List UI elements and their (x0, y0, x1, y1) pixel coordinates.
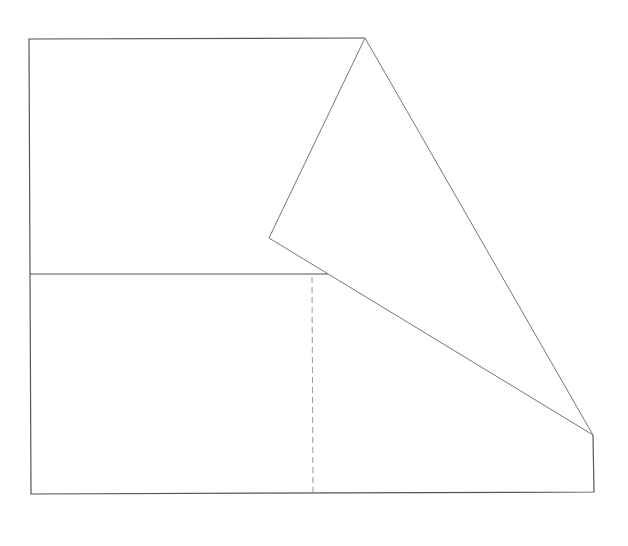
folded-flap (269, 38, 593, 435)
paper-outline (29, 38, 594, 494)
dashed-crease (312, 277, 313, 493)
folded-paper-diagram (0, 0, 628, 546)
